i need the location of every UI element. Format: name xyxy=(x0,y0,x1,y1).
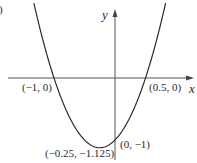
y-axis-label: y xyxy=(100,7,108,22)
x-intercept-left-label: (−1, 0) xyxy=(22,81,52,94)
parabola-curve xyxy=(34,3,166,148)
panel-label-fragment: ) xyxy=(0,3,3,16)
vertex-label: (−0.25, −1.125) xyxy=(45,147,115,160)
x-axis-arrow-icon xyxy=(186,76,194,81)
x-intercept-right-label: (0.5, 0) xyxy=(149,81,181,94)
y-intercept-label: (0, −1) xyxy=(120,138,150,151)
y-axis-arrow-icon xyxy=(113,9,118,17)
x-axis-label: x xyxy=(188,81,195,96)
parabola-chart: ) x y (−1, 0) (0.5, 0) (0, −1) (−0.25, −… xyxy=(0,0,197,163)
